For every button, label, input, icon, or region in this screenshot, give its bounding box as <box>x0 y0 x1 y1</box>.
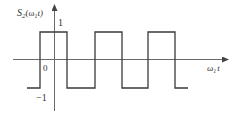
tick-label-low: −1 <box>36 92 47 103</box>
x-axis-label: ω1t <box>207 63 220 74</box>
square-wave-plot: S2(ω1t) ω1t 1 0 −1 <box>0 0 239 121</box>
tick-label-origin: 0 <box>43 63 48 73</box>
tick-label-high: 1 <box>58 17 63 28</box>
y-axis-label: S2(ω1t) <box>17 7 43 20</box>
